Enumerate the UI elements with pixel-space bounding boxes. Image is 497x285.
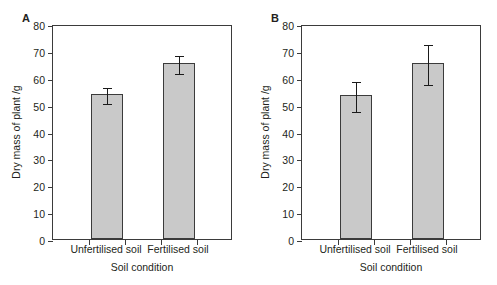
panel-b-y-tick [297,214,302,215]
panel-a-y-tick [48,53,53,54]
panel-a-y-tick-label: 10 [33,208,45,220]
panel-a-y-tick [48,26,53,27]
panel-a-y-tick [48,187,53,188]
panel-b-error-bar-1 [428,45,429,85]
panel-a: A Dry mass of plant /g 01020304050607080… [0,0,248,285]
panel-a-y-tick [48,107,53,108]
panel-b-bar-0 [340,95,372,239]
panel-b-label: B [271,12,279,24]
panel-b-y-tick [297,26,302,27]
panel-b-plot-area: 01020304050607080 [301,25,481,240]
panel-a-category-label-0: Unfertilised soil [70,243,141,255]
panel-b-y-tick-label: 20 [282,181,294,193]
panel-a-error-bar-0 [107,88,108,104]
panel-b-error-bar-0 [356,82,357,112]
panel-b-y-axis-title: Dry mass of plant /g [259,85,271,178]
panel-b-y-tick-label: 30 [282,154,294,166]
panel-b-category-label-1: Fertilised soil [396,243,457,255]
panel-a-y-tick-label: 60 [33,74,45,86]
panel-b-y-tick-label: 10 [282,208,294,220]
panel-a-bar-0 [91,94,123,239]
panel-a-category-label-1: Fertilised soil [147,243,208,255]
panel-a-y-tick-label: 0 [39,235,45,247]
panel-a-error-cap-0-lower [103,104,112,105]
panel-b-y-tick [297,107,302,108]
panel-a-plot-area: 01020304050607080 [52,25,232,240]
panel-a-y-tick-label: 80 [33,20,45,32]
panel-b-bar-1 [412,63,444,239]
panel-b-error-cap-1-lower [424,85,433,86]
panel-a-y-tick [48,241,53,242]
panel-a-y-tick-label: 40 [33,128,45,140]
panel-b-y-tick [297,160,302,161]
panel-a-y-tick [48,80,53,81]
panel-a-label: A [22,12,30,24]
figure-bar-charts: A Dry mass of plant /g 01020304050607080… [0,0,497,285]
panel-a-y-tick-label: 70 [33,47,45,59]
panel-b-y-tick [297,241,302,242]
panel-b-y-tick [297,53,302,54]
panel-b-y-tick-label: 70 [282,47,294,59]
panel-a-y-tick-label: 30 [33,154,45,166]
panel-b-x-axis-title: Soil condition [301,261,481,273]
panel-a-error-bar-1 [179,56,180,75]
panel-a-y-tick [48,214,53,215]
panel-b-y-tick-label: 0 [288,235,294,247]
panel-a-y-axis-title: Dry mass of plant /g [10,85,22,178]
panel-a-error-cap-0-upper [103,88,112,89]
panel-b-y-tick-label: 40 [282,128,294,140]
panel-a-y-tick [48,134,53,135]
panel-a-bar-1 [163,63,195,239]
panel-a-error-cap-1-lower [175,74,184,75]
panel-b-y-tick-label: 60 [282,74,294,86]
panel-b-category-label-0: Unfertilised soil [319,243,390,255]
panel-b-y-tick [297,134,302,135]
panel-a-y-tick [48,160,53,161]
panel-a-x-axis-title: Soil condition [52,261,232,273]
panel-a-error-cap-1-upper [175,56,184,57]
panel-b-y-tick-label: 50 [282,101,294,113]
panel-b-y-tick-label: 80 [282,20,294,32]
panel-b-error-cap-1-upper [424,45,433,46]
panel-b-error-cap-0-upper [352,82,361,83]
panel-b-error-cap-0-lower [352,112,361,113]
panel-a-y-tick-label: 20 [33,181,45,193]
panel-b-y-tick [297,187,302,188]
panel-a-y-tick-label: 50 [33,101,45,113]
panel-b: B Dry mass of plant /g 01020304050607080… [249,0,497,285]
panel-b-y-tick [297,80,302,81]
